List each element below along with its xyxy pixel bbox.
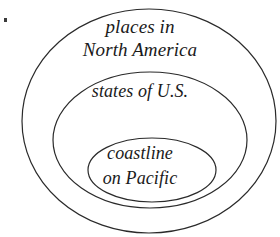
set-label-inner: coastline on Pacific: [0, 144, 280, 189]
set-label-middle-line-1: states of U.S.: [0, 82, 280, 101]
set-label-inner-line-2: on Pacific: [0, 169, 280, 188]
set-label-outer-line-2: North America: [0, 40, 280, 61]
set-label-inner-line-1: coastline: [0, 144, 280, 163]
set-label-outer: places in North America: [0, 17, 280, 60]
set-label-outer-line-1: places in: [0, 17, 280, 38]
set-label-middle: states of U.S.: [0, 82, 280, 101]
diagram-canvas: places in North America states of U.S. c…: [0, 0, 280, 237]
